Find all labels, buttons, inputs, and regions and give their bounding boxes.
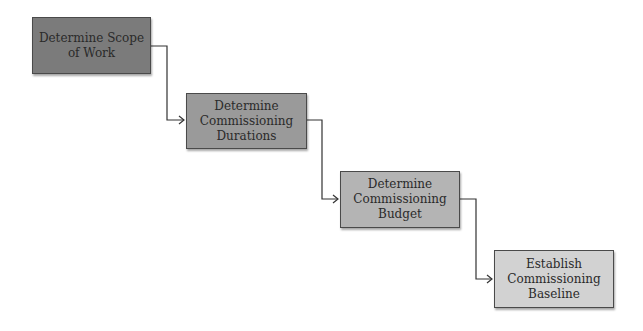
connector-3-4 — [460, 199, 492, 279]
step-establish-baseline: Establish Commissioning Baseline — [494, 250, 614, 308]
step-determine-scope: Determine Scope of Work — [32, 17, 151, 74]
step-determine-durations: Determine Commissioning Durations — [186, 93, 307, 149]
connector-2-3 — [307, 120, 338, 199]
connector-1-2 — [151, 46, 184, 120]
step-determine-budget: Determine Commissioning Budget — [340, 171, 460, 228]
